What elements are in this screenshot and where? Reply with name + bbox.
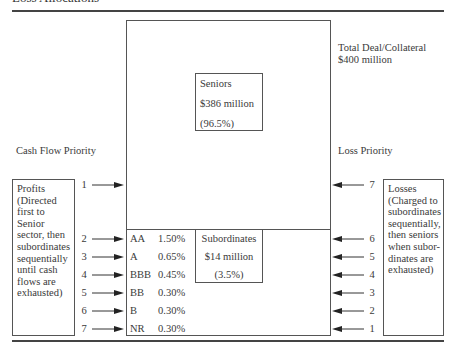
top-rule (12, 10, 444, 12)
profits-line: sequentially (17, 253, 72, 265)
arrow-right-icon (88, 235, 124, 243)
loss-arrow-4: 4 (332, 266, 378, 284)
losses-line: (Charged to (388, 195, 441, 207)
cash-flow-arrow-7: 7 (80, 320, 126, 338)
tranche-pct: 0.45% (158, 269, 185, 280)
losses-box: Losses (Charged to subordinates sequenti… (383, 179, 444, 336)
tranche-rating: AA (130, 230, 158, 248)
arrow-right-icon (88, 307, 124, 315)
priority-number: 7 (368, 176, 376, 194)
arrow-left-icon (332, 271, 368, 279)
tranche-rating: A (130, 248, 158, 266)
tranche-rating: NR (130, 320, 158, 338)
loss-arrow-2: 2 (332, 302, 378, 320)
losses-line: subordinates (388, 206, 441, 218)
losses-line: when subor- (388, 241, 441, 253)
cash-flow-arrow-4: 4 (80, 266, 126, 284)
tranche-pct: 0.30% (158, 323, 185, 334)
arrow-left-icon (332, 253, 368, 261)
priority-number: 3 (80, 248, 88, 266)
subordinates-pct: (3.5%) (196, 266, 262, 284)
seniors-amount: $386 million (200, 94, 262, 114)
loss-arrows-subs: 6 5 4 3 2 1 (332, 230, 378, 338)
arrow-right-icon (88, 289, 124, 297)
loss-arrow-1: 1 (332, 320, 378, 338)
profits-line: sector, then (17, 229, 72, 241)
cash-flow-priority-heading: Cash Flow Priority (16, 145, 96, 157)
profits-line: exhausted) (17, 287, 72, 299)
tranche-pct: 0.30% (158, 287, 185, 298)
tranche-pct: 0.65% (158, 251, 185, 262)
profits-line: until cash (17, 264, 72, 276)
tranche-pct: 1.50% (158, 233, 185, 244)
total-deal-label: Total Deal/Collateral $400 million (338, 42, 426, 66)
arrow-right-icon (88, 271, 124, 279)
tranche-list: AA1.50% A0.65% BBB0.45% BB0.30% B0.30% N… (130, 230, 185, 338)
tranche-row: B0.30% (130, 302, 185, 320)
seniors-name: Seniors (200, 74, 262, 94)
loss-arrow-6: 6 (332, 230, 378, 248)
priority-number: 4 (368, 266, 376, 284)
tranche-row: BBB0.45% (130, 266, 185, 284)
loss-arrow-3: 3 (332, 284, 378, 302)
profits-line: Profits (17, 183, 72, 195)
profits-box: Profits (Directed first to Senior sector… (12, 179, 75, 336)
subordinates-box: Subordinates $14 million (3.5%) (195, 229, 263, 283)
seniors-box: Seniors $386 million (96.5%) (195, 73, 263, 131)
cash-flow-arrow-3: 3 (80, 248, 126, 266)
profits-line: flows are (17, 276, 72, 288)
arrow-left-icon (332, 307, 368, 315)
priority-number: 1 (80, 176, 88, 194)
priority-number: 1 (368, 320, 376, 338)
loss-priority-heading: Loss Priority (338, 145, 393, 157)
profits-line: subordinates (17, 241, 72, 253)
priority-number: 6 (80, 302, 88, 320)
arrow-right-icon (88, 253, 124, 261)
subordinates-amount: $14 million (196, 248, 262, 266)
priority-number: 2 (80, 230, 88, 248)
losses-line: sequentially, (388, 218, 441, 230)
tranche-rating: BB (130, 284, 158, 302)
tranche-rating: B (130, 302, 158, 320)
tranche-row: NR0.30% (130, 320, 185, 338)
profits-line: (Directed (17, 195, 72, 207)
seniors-pct: (96.5%) (200, 114, 262, 134)
arrow-left-icon (332, 235, 368, 243)
arrow-left-icon (332, 325, 368, 333)
loss-arrow-7: 7 (332, 176, 378, 194)
losses-line: then seniors (388, 229, 441, 241)
tranche-row: A0.65% (130, 248, 185, 266)
losses-line: exhausted) (388, 264, 441, 276)
tranche-pct: 0.30% (158, 305, 185, 316)
priority-number: 5 (80, 284, 88, 302)
tranche-rating: BBB (130, 266, 158, 284)
arrow-right-icon (88, 325, 124, 333)
total-deal-line1: Total Deal/Collateral (338, 42, 426, 54)
priority-number: 6 (368, 230, 376, 248)
priority-number: 7 (80, 320, 88, 338)
tranche-row: AA1.50% (130, 230, 185, 248)
cash-flow-arrow-2: 2 (80, 230, 126, 248)
losses-line: Losses (388, 183, 441, 195)
priority-number: 3 (368, 284, 376, 302)
tranche-row: BB0.30% (130, 284, 185, 302)
cash-flow-arrow-6: 6 (80, 302, 126, 320)
priority-number: 4 (80, 266, 88, 284)
cash-flow-arrow-1: 1 (80, 176, 126, 194)
arrow-left-icon (332, 181, 368, 189)
subordinates-name: Subordinates (196, 230, 262, 248)
bottom-rule (12, 340, 444, 342)
cash-flow-arrows-subs: 2 3 4 5 6 7 (80, 230, 126, 338)
cash-flow-arrow-5: 5 (80, 284, 126, 302)
figure-title: Loss Allocations (12, 0, 99, 5)
loss-arrow-5: 5 (332, 248, 378, 266)
priority-number: 5 (368, 248, 376, 266)
arrow-right-icon (88, 181, 124, 189)
losses-line: dinates are (388, 253, 441, 265)
arrow-left-icon (332, 289, 368, 297)
priority-number: 2 (368, 302, 376, 320)
profits-line: first to Senior (17, 206, 72, 229)
total-deal-line2: $400 million (338, 54, 426, 66)
